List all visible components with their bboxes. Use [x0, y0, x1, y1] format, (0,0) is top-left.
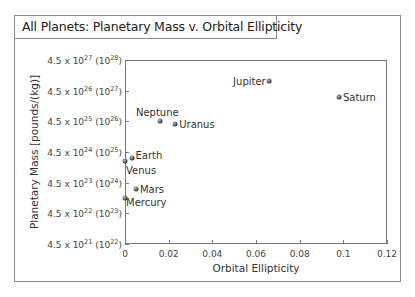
y-tick-label: 4.5 x 1027 (1028)	[47, 54, 122, 66]
data-point-saturn	[336, 94, 341, 99]
data-point-mars	[133, 186, 138, 191]
x-tick-label: 0.1	[336, 249, 350, 259]
x-tick	[212, 240, 213, 244]
x-axis-label: Orbital Ellipticity	[212, 262, 299, 274]
y-tick	[125, 91, 129, 92]
data-point-venus	[123, 159, 128, 164]
x-tick	[300, 240, 301, 244]
point-label-earth: Earth	[136, 150, 163, 161]
point-label-mercury: Mercury	[126, 197, 167, 208]
x-tick	[256, 240, 257, 244]
y-tick	[125, 183, 129, 184]
data-point-uranus	[173, 122, 178, 127]
x-tick-label: 0.08	[290, 249, 310, 259]
y-tick	[125, 152, 129, 153]
point-label-neptune: Neptune	[136, 107, 179, 118]
data-point-earth	[129, 156, 134, 161]
x-tick-label: 0.04	[202, 249, 222, 259]
plot-area	[125, 60, 387, 244]
y-axis-label: Planetary Mass [pounds/(kg)]	[28, 75, 40, 229]
y-tick	[125, 244, 129, 245]
point-label-venus: Venus	[126, 165, 156, 176]
x-tick	[387, 240, 388, 244]
y-tick	[125, 121, 129, 122]
x-tick-label: 0.06	[246, 249, 266, 259]
y-tick-label: 4.5 x 1023 (1024)	[47, 177, 122, 189]
point-label-uranus: Uranus	[179, 119, 214, 130]
point-label-mars: Mars	[140, 183, 164, 194]
x-tick-label: 0	[122, 249, 128, 259]
y-tick-label: 4.5 x 1026 (1027)	[47, 85, 122, 97]
x-tick	[125, 240, 126, 244]
chart-title: All Planets: Planetary Mass v. Orbital E…	[14, 15, 277, 39]
y-tick	[125, 60, 129, 61]
data-point-neptune	[157, 119, 162, 124]
x-tick-label: 0.12	[377, 249, 397, 259]
y-tick	[125, 213, 129, 214]
y-tick-label: 4.5 x 1025 (1026)	[47, 115, 122, 127]
y-tick-label: 4.5 x 1021 (1022)	[47, 238, 122, 250]
y-tick-label: 4.5 x 1022 (1023)	[47, 207, 122, 219]
point-label-jupiter: Jupiter	[233, 76, 266, 87]
y-tick-label: 4.5 x 1024 (1025)	[47, 146, 122, 158]
x-tick-label: 0.02	[159, 249, 179, 259]
x-tick	[169, 240, 170, 244]
data-point-jupiter	[267, 79, 272, 84]
point-label-saturn: Saturn	[343, 91, 376, 102]
x-tick	[343, 240, 344, 244]
